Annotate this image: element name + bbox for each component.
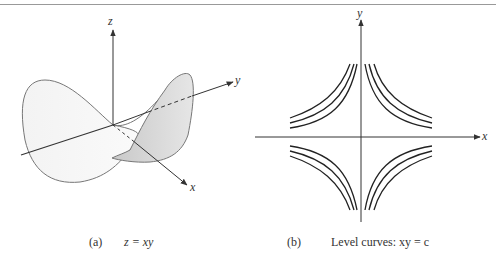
- caption-b-tag: (b): [287, 235, 301, 250]
- y-axis-label-2d: y: [357, 6, 362, 21]
- figure-canvas: [0, 0, 496, 261]
- x-axis-label-2d: x: [482, 129, 487, 144]
- y-axis-label-3d: y: [235, 73, 240, 88]
- caption-a-tag: (a): [89, 235, 102, 250]
- y-axis-front: [192, 82, 233, 96]
- saddle-surface: [22, 73, 193, 182]
- axes-2d: [255, 20, 480, 222]
- caption-b-text: Level curves: xy = c: [331, 235, 429, 250]
- x-axis-label-3d: x: [190, 180, 195, 195]
- z-axis-label: z: [108, 14, 113, 29]
- caption-a-text: z = xy: [124, 235, 153, 250]
